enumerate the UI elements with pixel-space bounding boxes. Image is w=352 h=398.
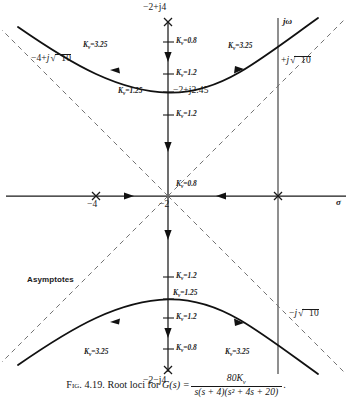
caption-transfer-function-symbol: G(s) = — [162, 379, 190, 390]
caption-text: Root loci for — [107, 379, 159, 390]
locus-direction-arrows — [110, 52, 244, 338]
caption-line: Fig. 4.19. Root loci for G(s) =80Kvs(s +… — [66, 372, 285, 395]
caption-fraction: 80Kvs(s + 4)(s² + 4s + 20) — [191, 373, 283, 396]
caption-period: . — [283, 379, 286, 390]
caption-numerator: 80Kv — [191, 373, 283, 386]
caption-denominator: s(s + 4)(s² + 4s + 20) — [191, 386, 283, 397]
root-locus-plot: .ax{stroke:#1a1a1a;stroke-width:1.25;fil… — [0, 0, 352, 398]
caption-figure-number: Fig. 4.19. — [66, 379, 105, 390]
root-locus-figure: .ax{stroke:#1a1a1a;stroke-width:1.25;fil… — [0, 0, 352, 398]
figure-caption: Fig. 4.19. Root loci for G(s) =80Kvs(s +… — [0, 372, 352, 398]
